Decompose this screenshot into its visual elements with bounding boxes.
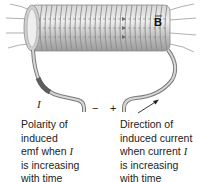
- current-arrow-segment: [38, 78, 50, 92]
- induced-current-arrow: [138, 100, 159, 114]
- caption-polarity: Polarity of induced emf when I is increa…: [21, 118, 79, 182]
- caption-line: induced current: [120, 132, 192, 146]
- solenoid-coil: [24, 5, 170, 51]
- right-lead-wire: [124, 50, 175, 112]
- field-label-b: B: [154, 16, 162, 28]
- caption-line: is increasing: [21, 159, 79, 173]
- current-symbol: I: [184, 146, 188, 157]
- caption-line: with time: [120, 172, 192, 182]
- caption-text: when current: [120, 145, 184, 157]
- current-label-i: I: [37, 98, 41, 110]
- minus-sign: −: [92, 102, 98, 114]
- current-symbol: I: [69, 146, 73, 157]
- caption-line: when current I: [120, 145, 192, 159]
- caption-line: induced: [21, 132, 79, 146]
- plus-sign: +: [110, 102, 116, 114]
- caption-line: emf when I: [21, 145, 79, 159]
- caption-text: emf when: [21, 145, 69, 157]
- caption-direction: Direction of induced current when curren…: [120, 118, 192, 182]
- caption-line: Polarity of: [21, 118, 79, 132]
- caption-line: is increasing: [120, 159, 192, 173]
- caption-line: with time: [21, 172, 79, 182]
- caption-line: Direction of: [120, 118, 192, 132]
